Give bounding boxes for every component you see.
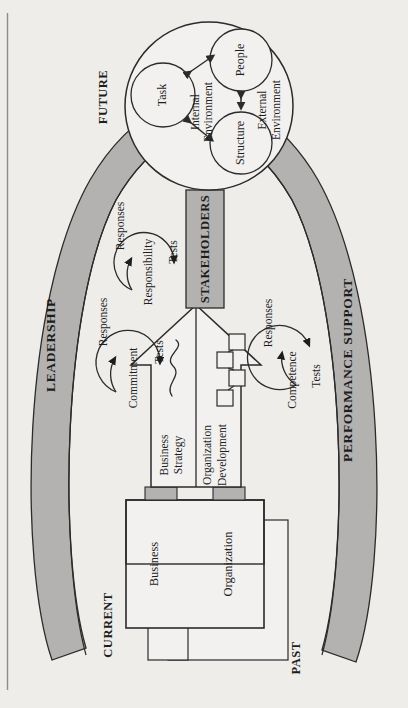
cycle-responsibility-tests: Tests: [167, 240, 179, 264]
future-label: FUTURE: [96, 70, 110, 124]
cycle-competence-responses: Responses: [262, 298, 275, 347]
internal-environment-label-line1: Internal: [189, 94, 201, 130]
cycle-competence-tests: Tests: [310, 364, 322, 388]
performance-support-band-label: PERFORMANCE SUPPORT: [340, 278, 355, 462]
cycle-responsibility-driver: Responsibility: [142, 239, 155, 306]
external-environment-label-line1: External: [256, 91, 268, 130]
stakeholders-label: STAKEHOLDERS: [198, 195, 212, 304]
node-people-label: People: [233, 44, 247, 77]
cycle-commitment-tests: Tests: [153, 340, 165, 364]
strategy-model-diagram: LEADERSHIP PERFORMANCE SUPPORT Business …: [0, 0, 408, 708]
internal-environment-label-line2: Environment: [202, 81, 214, 142]
lane-organization-development-line1: Organization: [201, 425, 214, 485]
cycle-commitment-responses: Responses: [97, 297, 110, 346]
lane-business-strategy-line2: Strategy: [172, 436, 185, 475]
connector-tab-organization: [213, 487, 245, 500]
cycle-competence-driver: Competence: [286, 351, 299, 408]
cycle-responsibility-responses: Responses: [114, 201, 127, 250]
current-label: CURRENT: [101, 592, 115, 657]
node-structure-label: Structure: [233, 121, 247, 165]
external-environment-label-line2: Environment: [270, 79, 282, 140]
organization-box-label: Organization: [221, 531, 235, 597]
lane-organization-development-line2: Development: [216, 423, 229, 486]
connector-tab-business: [145, 487, 177, 500]
past-label: PAST: [289, 641, 303, 674]
leadership-band-label: LEADERSHIP: [43, 298, 58, 392]
cycle-commitment-driver: Commitment: [127, 347, 139, 409]
business-box-label: Business: [147, 542, 161, 587]
diagram-canvas: LEADERSHIP PERFORMANCE SUPPORT Business …: [0, 0, 408, 708]
lane-business-strategy-line1: Business: [158, 434, 170, 475]
node-task-label: Task: [155, 84, 169, 107]
